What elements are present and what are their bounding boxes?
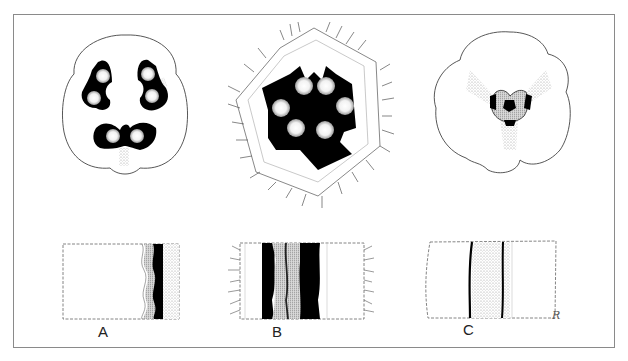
panel-b-longitudinal-section <box>228 243 374 319</box>
panel-label-a: A <box>98 324 108 339</box>
artist-signature: R <box>552 309 560 322</box>
illustration-canvas <box>0 0 628 361</box>
panel-label-c: C <box>463 322 474 337</box>
panel-label-b: B <box>272 324 282 339</box>
panel-c-cross-section <box>434 32 570 173</box>
panel-b-cross-section <box>228 22 394 208</box>
panel-c-longitudinal-section <box>426 241 556 318</box>
panel-a-cross-section <box>62 35 187 174</box>
panel-a-longitudinal-section <box>63 244 179 319</box>
